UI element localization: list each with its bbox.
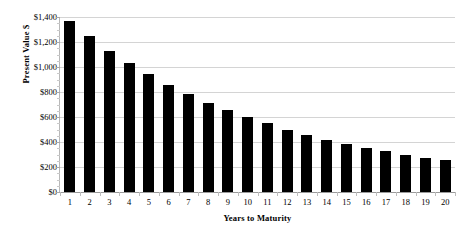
bar <box>420 158 431 192</box>
bar <box>163 85 174 193</box>
x-axis-tick <box>100 192 101 196</box>
bar <box>282 130 293 193</box>
y-axis-tick-label: $200 <box>16 163 57 172</box>
x-axis-title: Years to Maturity <box>60 213 455 223</box>
x-axis-tick-label: 10 <box>238 197 258 207</box>
x-axis-tick-label: 3 <box>99 197 119 207</box>
x-axis-tick-label: 2 <box>80 197 100 207</box>
bar <box>124 63 135 192</box>
x-axis-tick <box>356 192 357 196</box>
x-axis-tick <box>139 192 140 196</box>
x-axis-tick-label: 7 <box>178 197 198 207</box>
x-axis-tick <box>317 192 318 196</box>
y-axis-tick-label: $1,200 <box>16 38 57 47</box>
y-axis-tick-label: $600 <box>16 113 57 122</box>
bar <box>321 140 332 193</box>
x-axis-tick-label: 6 <box>159 197 179 207</box>
y-axis-tick-label: $1,000 <box>16 63 57 72</box>
bar <box>64 21 75 192</box>
x-axis-tick <box>277 192 278 196</box>
x-axis-tick <box>159 192 160 196</box>
x-axis-tick-label: 4 <box>119 197 139 207</box>
bar <box>183 94 194 192</box>
bar <box>262 123 273 192</box>
x-axis-tick <box>455 192 456 196</box>
x-axis-tick-label: 9 <box>218 197 238 207</box>
x-axis-tick <box>416 192 417 196</box>
x-axis-tick <box>80 192 81 196</box>
x-axis-tick-label: 20 <box>435 197 455 207</box>
bar-series <box>60 17 455 192</box>
x-axis-tick-label: 11 <box>257 197 277 207</box>
x-axis-tick <box>119 192 120 196</box>
x-axis-tick <box>396 192 397 196</box>
y-axis-tick-label: $800 <box>16 88 57 97</box>
x-axis-tick-labels: 1234567891011121314151617181920 <box>60 197 455 211</box>
bar-chart: Present Value $ $0$200$400$600$800$1,000… <box>0 0 464 243</box>
x-axis-tick-label: 15 <box>336 197 356 207</box>
x-axis-tick-label: 8 <box>198 197 218 207</box>
bar <box>222 110 233 192</box>
y-axis-tick-label: $1,400 <box>16 13 57 22</box>
x-axis-tick-label: 12 <box>277 197 297 207</box>
y-axis-tick-labels: $0$200$400$600$800$1,000$1,200$1,400 <box>16 0 57 243</box>
x-axis-tick <box>218 192 219 196</box>
x-axis-tick-label: 5 <box>139 197 159 207</box>
bar <box>143 74 154 192</box>
y-axis-tick-label: $400 <box>16 138 57 147</box>
x-axis-tick-label: 16 <box>356 197 376 207</box>
x-axis-tick <box>297 192 298 196</box>
x-axis-tick <box>60 192 61 196</box>
bar <box>400 155 411 193</box>
x-axis-tick <box>179 192 180 196</box>
bar <box>440 160 451 192</box>
bar <box>84 36 95 192</box>
y-axis-tick-label: $0 <box>16 188 57 197</box>
x-axis-tick-label: 19 <box>415 197 435 207</box>
x-axis-tick-label: 13 <box>297 197 317 207</box>
x-axis-tick-label: 1 <box>60 197 80 207</box>
x-axis-tick <box>238 192 239 196</box>
bar <box>203 103 214 192</box>
x-axis-tick <box>337 192 338 196</box>
x-axis-tick <box>376 192 377 196</box>
bar <box>361 148 372 192</box>
x-axis-tick-label: 17 <box>376 197 396 207</box>
x-axis-tick <box>435 192 436 196</box>
bar <box>104 51 115 192</box>
x-axis-tick <box>198 192 199 196</box>
bar <box>341 144 352 192</box>
plot-area <box>60 17 455 192</box>
bar <box>301 135 312 193</box>
x-axis-tick-label: 18 <box>396 197 416 207</box>
bar <box>242 117 253 192</box>
bar <box>380 151 391 192</box>
x-axis-tick <box>258 192 259 196</box>
x-axis-tick-label: 14 <box>317 197 337 207</box>
